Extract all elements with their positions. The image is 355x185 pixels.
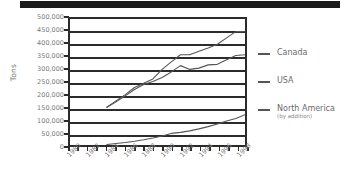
y-tick-label: 250,000: [16, 79, 64, 86]
legend-line-icon: [258, 53, 270, 55]
y-tick-label: 400,000: [16, 40, 64, 47]
y-tick-label: 350,000: [16, 53, 64, 60]
legend-item-north-america: North America (by addition): [258, 104, 353, 118]
y-tick-mark: [64, 42, 69, 44]
legend-label: USA: [277, 76, 294, 86]
plot-area: [68, 17, 247, 147]
y-axis-tick-labels: 050,000100,000150,000200,000250,000300,0…: [16, 17, 64, 147]
y-tick-mark: [64, 68, 69, 70]
series-line-north-america: [107, 115, 245, 145]
y-tick-label: 450,000: [16, 27, 64, 34]
series-line-usa: [107, 55, 245, 107]
legend-item-usa: USA: [258, 76, 353, 90]
y-tick-label: 150,000: [16, 105, 64, 112]
series-lines: [70, 19, 245, 145]
y-tick-label: 100,000: [16, 118, 64, 125]
y-tick-mark: [64, 81, 69, 83]
y-tick-mark: [64, 107, 69, 109]
y-tick-label: 500,000: [16, 14, 64, 21]
y-tick-mark: [64, 16, 69, 18]
legend-sublabel: (by addition): [277, 113, 312, 120]
legend-item-canada: Canada: [258, 48, 353, 62]
chart-figure: Tons 050,000100,000150,000200,000250,000…: [0, 0, 355, 185]
chart-legend: Canada USA North America (by addition): [258, 48, 353, 132]
legend-line-icon: [258, 109, 270, 111]
y-tick-label: 300,000: [16, 66, 64, 73]
y-tick-mark: [64, 133, 69, 135]
y-tick-label: 50,000: [16, 131, 64, 138]
y-tick-mark: [64, 29, 69, 31]
y-tick-label: 0: [16, 144, 64, 151]
y-tick-mark: [64, 94, 69, 96]
y-tick-mark: [64, 120, 69, 122]
y-tick-label: 200,000: [16, 92, 64, 99]
legend-line-icon: [258, 81, 270, 83]
legend-label: Canada: [277, 48, 307, 58]
y-tick-mark: [64, 55, 69, 57]
